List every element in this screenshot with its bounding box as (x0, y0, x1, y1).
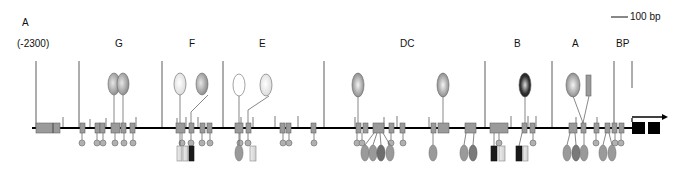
top-factors (108, 73, 591, 123)
factor-rect-a (586, 75, 591, 96)
transcription-start-arrow (632, 114, 668, 122)
factor-oval-f1 (174, 73, 186, 95)
factor-oval-a (566, 73, 580, 97)
factor-oval-e2 (260, 74, 272, 96)
scale-bar-label: 100 bp (630, 11, 661, 22)
start-position-label: (-2300) (17, 38, 49, 49)
promoter-diagram: A (-2300) G F E DC B A BP 100 bp (0, 0, 678, 169)
region-label-a: A (572, 38, 579, 49)
region-label-g: G (115, 38, 123, 49)
small-circle-factors (79, 133, 624, 146)
factor-oval-b (519, 73, 531, 97)
exons (632, 122, 660, 134)
lower-factors (177, 133, 616, 161)
upstream-element (36, 123, 60, 133)
region-label-b: B (514, 38, 521, 49)
region-boundaries (36, 61, 632, 128)
region-label-f: F (189, 38, 195, 49)
factor-oval-g2 (117, 73, 129, 95)
minor-ticks (63, 116, 597, 128)
region-label-e: E (259, 38, 266, 49)
panel-label: A (22, 17, 29, 28)
factor-oval-e1 (233, 74, 245, 96)
factor-oval-dc2 (437, 73, 449, 97)
factor-oval-dc1 (352, 73, 364, 97)
region-label-bp: BP (616, 38, 630, 49)
region-label-dc: DC (400, 38, 414, 49)
factor-oval-f2 (196, 73, 208, 95)
